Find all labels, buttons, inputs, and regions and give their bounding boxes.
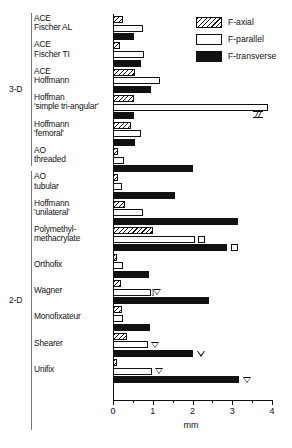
x-tick-major [193,400,194,405]
category-label: Wagner [34,286,62,295]
bar-chart: ACEFischer ALACEFischer TIACEHoffmannHof… [0,0,292,448]
group-bracket [31,13,32,166]
bar-transverse [113,376,239,383]
bar-transverse [113,271,149,278]
category-label: Hoffmann'femoral' [34,120,69,139]
legend-item-f-parallel: F-parallel [196,33,292,50]
bar-parallel [113,368,152,375]
x-tick-label: 1 [146,406,160,416]
triangle-marker [151,342,159,348]
category-label-line1: Wagner [34,285,62,295]
category-label: AOthreaded [34,146,66,165]
category-label: ACEHoffmann [34,67,69,86]
bar-axial [113,174,118,181]
triangle-marker [153,289,161,295]
group-label: 2-D [9,296,22,306]
bar-transverse [113,218,238,225]
legend-swatch-f-parallel [196,34,222,45]
axis-break-mark [253,104,263,111]
x-tick-minor [212,400,213,403]
bar-axial [113,201,125,208]
square-marker [231,244,238,251]
square-marker [198,236,205,243]
category-label: Shearer [34,339,63,348]
category-label-line1: Shearer [34,338,63,348]
category-label-line2: 'unilateral' [34,208,69,217]
category-label: Monofixateur [34,312,81,321]
category-label: Hoffmann'unilateral' [34,199,69,218]
bar-transverse [113,60,141,67]
x-tick-minor [133,400,134,403]
bar-transverse [113,324,150,331]
category-label-line2: Hoffmann [34,76,69,85]
bar-axial [113,280,121,287]
triangle-marker [197,351,205,357]
legend-item-f-axial: F-axial [196,16,292,33]
bar-parallel [113,77,160,84]
bar-axial [113,148,118,155]
bar-transverse [113,86,151,93]
bar-parallel [113,183,122,190]
legend-label-f-axial: F-axial [228,17,254,28]
bar-transverse [113,350,193,357]
category-label-line2: 'simple tri-angular' [34,102,98,111]
category-label: ACEFischer AL [34,14,72,33]
bar-transverse [113,33,134,40]
legend-swatch-f-axial [196,17,222,28]
bar-transverse [113,139,135,146]
bar-parallel [113,289,151,296]
category-label-line1: Monofixateur [34,311,81,321]
bar-transverse [113,244,227,251]
bar-axial [113,122,131,129]
bar-axial [113,16,123,23]
legend: F-axial F-parallel F-transverse [196,16,292,67]
x-axis-title: mm [184,420,199,430]
category-label-line1: AO [34,171,46,181]
category-label-line2: Fischer AL [34,23,72,32]
bar-parallel [113,51,144,58]
bar-parallel [113,341,148,348]
group-label: 3-D [9,85,22,95]
category-label-line2: 'femoral' [34,129,69,138]
bar-axial [113,227,153,234]
bar-axial [113,306,122,313]
bar-parallel [113,315,123,322]
legend-label-f-transverse: F-transverse [228,51,276,62]
category-label-column: ACEFischer ALACEFischer TIACEHoffmannHof… [0,0,113,448]
bar-transverse [113,112,134,119]
bar-parallel [113,104,268,111]
category-label-line2: methacrylate [34,234,80,243]
x-tick-label: 0 [106,406,120,416]
category-label: Unifix [34,365,54,374]
category-label-line1: Orthofix [34,259,62,269]
bar-parallel [113,157,124,164]
bar-axial [113,69,135,76]
legend-item-f-transverse: F-transverse [196,50,292,67]
bar-parallel [113,236,195,243]
category-label: AOtubular [34,172,59,191]
category-label: Polymethyl-methacrylate [34,225,80,244]
x-tick-major [113,400,114,405]
bar-transverse [113,192,175,199]
bar-parallel [113,25,143,32]
bar-transverse [113,297,209,304]
bar-parallel [113,130,141,137]
category-label-line1: Unifix [34,364,54,374]
bar-axial [113,359,117,366]
bar-parallel [113,262,123,269]
triangle-marker [155,368,163,374]
x-tick-label: 2 [186,406,200,416]
triangle-marker [243,377,251,383]
category-label-line2: Fischer TI [34,50,70,59]
bar-transverse [113,165,193,172]
bar-axial [113,42,120,49]
category-label: Hoffman'simple tri-angular' [34,93,98,112]
legend-swatch-f-transverse [196,51,222,62]
group-bracket [31,171,32,430]
x-tick-major [153,400,154,405]
bar-parallel [113,209,143,216]
x-tick-minor [173,400,174,403]
bar-axial [113,333,127,340]
category-label: ACEFischer TI [34,40,70,59]
x-tick-major [272,400,273,405]
